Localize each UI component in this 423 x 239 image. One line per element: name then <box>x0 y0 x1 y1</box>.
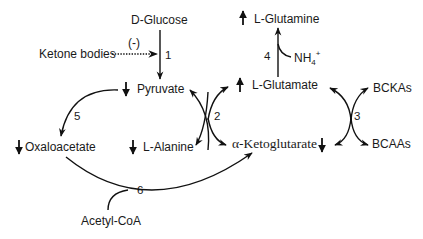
arrow-nh4-input <box>278 44 291 57</box>
node-nh4: NH4+ <box>294 49 321 67</box>
node-bckas: BCKAs <box>373 81 412 95</box>
node-l-alanine: L-Alanine <box>143 140 194 154</box>
node-pyruvate: Pyruvate <box>137 82 185 96</box>
node-l-glutamate: L-Glutamate <box>252 78 318 92</box>
arrow-oxaloacetate-to-ketoglutarate <box>66 153 252 190</box>
node-d-glucose: D-Glucose <box>131 13 188 27</box>
arrow-3-to-bcaas <box>351 118 368 145</box>
reaction-label-3: 3 <box>354 110 360 122</box>
node-acetyl-coa: Acetyl-CoA <box>81 214 141 228</box>
reaction-label-4: 4 <box>264 50 271 62</box>
arrow-2-to-ketoglutarate <box>208 118 226 145</box>
node-bcaas: BCAAs <box>372 137 411 151</box>
node-ketone-bodies: Ketone bodies <box>39 47 116 61</box>
inhibition-symbol: (-) <box>128 36 140 50</box>
reaction-label-1: 1 <box>165 49 171 61</box>
node-oxaloacetate: Oxaloacetate <box>25 140 96 154</box>
node-l-glutamine: L-Glutamine <box>254 12 320 26</box>
metabolic-pathway-diagram: D-Glucose Ketone bodies (-) Pyruvate Oxa… <box>0 0 423 239</box>
arrow-pyruvate-to-oxaloacetate <box>61 90 118 136</box>
reaction-label-2: 2 <box>214 110 220 122</box>
arrow-3-to-glutamate <box>330 88 351 120</box>
arrow-3-to-ketoglutarate <box>335 118 351 145</box>
node-alpha-ketoglutarate: α-Ketoglutarate <box>232 136 317 151</box>
arrow-acetyl-coa-input <box>108 190 128 210</box>
reaction-label-5: 5 <box>74 110 80 122</box>
